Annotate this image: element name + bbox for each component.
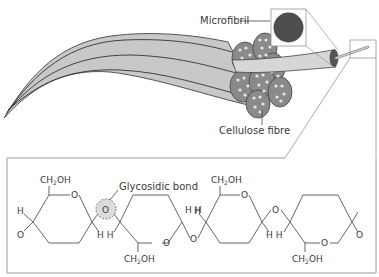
molecular-structure-panel: CH2OH CH2OH CH2OH CH2OH O O O O O O O H … xyxy=(7,158,376,273)
ring-oxygen: O xyxy=(163,238,170,248)
bridging-oxygen: O xyxy=(190,234,197,244)
glycosidic-oxygen: O xyxy=(102,205,109,215)
ring-oxygen: O xyxy=(71,190,78,200)
hydrogen-label: H xyxy=(17,206,24,216)
ch2oh-label: CH2OH xyxy=(211,175,242,186)
glycosidic-bond-label: Glycosidic bond xyxy=(119,181,198,192)
hh-label: H H xyxy=(185,205,201,215)
ch2oh-label: CH2OH xyxy=(40,175,71,186)
cellulose-fibre-label: Cellulose fibre xyxy=(219,125,290,136)
bridging-oxygen: O xyxy=(272,205,279,215)
oxygen-label: O xyxy=(356,230,363,240)
ring-oxygen: O xyxy=(241,190,248,200)
microfibril-label: Microfibril xyxy=(200,15,249,26)
cellulose-fibre-illustration xyxy=(4,33,368,118)
hh-label: H H xyxy=(266,230,282,240)
hh-label: H H xyxy=(97,230,113,240)
ch2oh-label: CH2OH xyxy=(124,254,155,265)
ch2oh-label: CH2OH xyxy=(292,254,323,265)
ring-oxygen: O xyxy=(321,238,328,248)
oxygen-label: O xyxy=(17,230,24,240)
cellulose-diagram: Microfibril Cellulose fibre xyxy=(0,0,379,277)
